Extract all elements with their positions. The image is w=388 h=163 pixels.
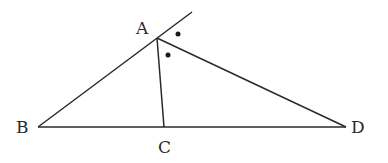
label-a: A [135, 18, 149, 38]
label-c: C [158, 137, 171, 157]
label-d: D [351, 117, 365, 137]
line-ba-extended [38, 12, 192, 127]
segment-ac [157, 38, 164, 127]
segment-ad [157, 38, 346, 127]
geometry-diagram: A B C D [0, 0, 388, 163]
angle-mark-exterior [176, 32, 181, 37]
angle-mark-cad [166, 53, 171, 58]
label-b: B [16, 117, 29, 137]
